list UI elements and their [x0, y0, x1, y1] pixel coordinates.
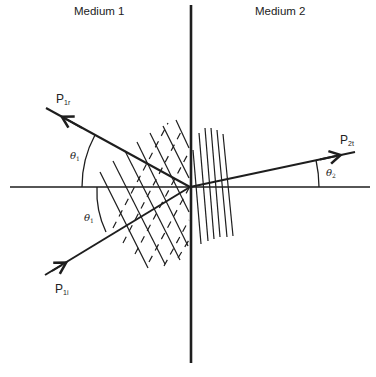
incident-ray-label: P1i — [55, 282, 68, 296]
incidence-angle-subscript: 1 — [90, 217, 94, 224]
incident-wavefronts — [100, 120, 189, 268]
reflected-ray-label: P1r — [56, 92, 70, 106]
transmission-angle-subscript: 2 — [332, 172, 336, 179]
transmitted-ray-label: P2t — [340, 133, 354, 147]
reflected-ray-arrow — [66, 119, 82, 128]
refraction-diagram — [0, 0, 376, 377]
incident-ray-arrow — [52, 265, 62, 271]
medium-1-label: Medium 1 — [74, 5, 125, 17]
reflection-angle-arc — [82, 135, 95, 187]
incidence-angle-arc — [97, 187, 106, 232]
transmitted-ray-arrow — [320, 156, 336, 160]
transmission-angle-arc — [316, 160, 319, 187]
reflected-ray-symbol: P — [56, 92, 64, 106]
incident-ray-subscript: 1i — [63, 289, 68, 296]
reflection-angle-subscript: 1 — [76, 155, 80, 162]
reflected-ray-subscript: 1r — [64, 99, 70, 106]
incident-ray — [45, 187, 190, 275]
transmitted-ray-symbol: P — [340, 133, 348, 147]
medium-2-label: Medium 2 — [255, 5, 306, 17]
reflection-angle-label: θ1 — [70, 150, 80, 162]
transmission-angle-label: θ2 — [326, 167, 336, 179]
incidence-angle-label: θ1 — [84, 212, 94, 224]
transmitted-ray-subscript: 2t — [348, 140, 354, 147]
incident-ray-symbol: P — [55, 282, 63, 296]
